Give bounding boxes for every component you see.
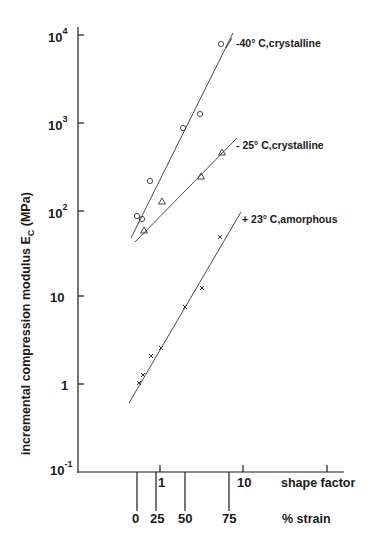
strain-tick-50: 50 [178,511,192,526]
shape-factor-tick-1: 1 [158,475,165,490]
y-axis-title: incremental compression modulus EC (MPa) [19,192,36,455]
shape-factor-label: shape factor [281,476,355,490]
strain-tick-25: 25 [150,511,164,526]
strain-label: % strain [282,512,331,526]
strain-tick-0: 0 [132,511,139,526]
series-minus25-crystalline: - 25° C,crystalline [135,138,324,242]
svg-text:102: 102 [48,202,67,221]
series-minus40-crystalline: -40° C,crystalline [131,33,321,238]
svg-text:10: 10 [50,290,64,305]
svg-text:103: 103 [48,114,67,133]
series-label-minus25: - 25° C,crystalline [236,139,324,151]
strain-ticks [137,472,229,511]
svg-text:1: 1 [61,378,68,393]
shape-factor-ticks [160,465,327,472]
series-label-minus40: -40° C,crystalline [236,37,321,49]
svg-text:104: 104 [48,26,67,45]
y-tick-labels: 104 103 102 10 1 10-1 [48,26,72,478]
shape-factor-tick-10: 10 [237,475,251,490]
strain-tick-75: 75 [222,511,236,526]
svg-text:10-1: 10-1 [50,459,72,478]
chart: 104 103 102 10 1 10-1 incremental compre… [0,0,376,547]
series-plus23-amorphous: + 23° C,amorphous [129,212,338,403]
y-ticks [78,35,84,384]
series-label-plus23: + 23° C,amorphous [242,213,338,225]
